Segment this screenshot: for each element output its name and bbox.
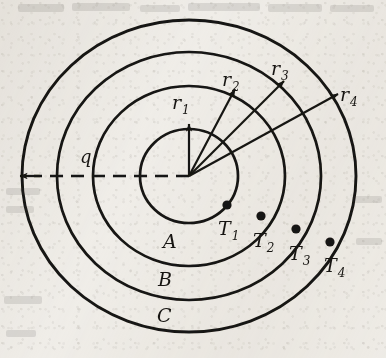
heat-flux-label-q: q xyxy=(80,146,92,167)
layer-label-a: A xyxy=(161,230,177,252)
temperature-label-t1: T1 xyxy=(218,217,239,243)
radius-label-r1: r1 xyxy=(172,91,190,117)
temperature-label-t4: T4 xyxy=(324,254,345,280)
temperature-dot-t3 xyxy=(291,224,300,233)
radius-arrow-group xyxy=(189,81,338,176)
layer-label-group: A B C xyxy=(157,230,177,326)
figure-canvas: r1 r2 r3 r4 T1 T2 T3 T4 xyxy=(0,0,386,358)
temperature-label-group: T1 T2 T3 T4 xyxy=(218,217,345,280)
radius-label-r4: r4 xyxy=(340,83,358,109)
layer-label-c: C xyxy=(157,304,172,326)
concentric-circles-diagram: r1 r2 r3 r4 T1 T2 T3 T4 xyxy=(0,0,386,358)
temperature-label-t2: T2 xyxy=(253,229,274,255)
layer-label-b: B xyxy=(157,268,172,290)
temperature-dot-t1 xyxy=(222,200,231,209)
temperature-dot-t4 xyxy=(325,237,334,246)
temperature-dot-t2 xyxy=(256,211,265,220)
radius-label-r2: r2 xyxy=(222,68,240,94)
temperature-label-t3: T3 xyxy=(289,242,311,268)
radius-label-r3: r3 xyxy=(271,57,289,83)
